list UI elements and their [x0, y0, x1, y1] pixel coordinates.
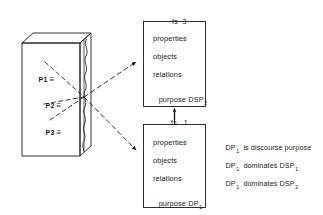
segment-relation-symbol-p2: ≡ — [55, 101, 62, 110]
statement-3-object-subscript: 2 — [295, 184, 299, 190]
statement-line-3: DP1 dominates DSP2 — [217, 173, 298, 195]
fs3-slot-objects: objects — [153, 53, 177, 60]
fs3-purpose-value: DSP — [188, 95, 204, 104]
fs3-purpose-subscript: 2 — [204, 100, 208, 106]
statement-3-predicate: dominates — [243, 179, 277, 188]
fs1-slot-properties: properties — [153, 139, 187, 146]
segment-label-p2: P2≡ — [37, 95, 61, 117]
fs-link-tag: fs 1 — [162, 112, 188, 133]
statement-3-object: DSP — [280, 179, 295, 188]
fs1-slot-objects: objects — [153, 157, 177, 164]
fs3-tag-number: 3 — [183, 18, 187, 25]
figure-canvas: P1≡ P2≡ P3≡ fs 3 properties objects rela… — [0, 0, 323, 215]
fs3-slot-properties: properties — [153, 35, 187, 42]
fs1-purpose-subscript: 1 — [199, 204, 203, 210]
dashed-arrow-to-fs3 — [84, 62, 136, 97]
fs3-slot-purpose: purpose DSP2 — [150, 89, 207, 111]
statement-2-predicate: dominates — [243, 161, 277, 170]
segment-relation-symbol-p1: ≡ — [48, 75, 55, 84]
fs3-tag: fs 3 — [163, 11, 187, 32]
segment-label-p3: P3≡ — [37, 122, 61, 144]
statement-1-subject-subscript: 1 — [236, 148, 240, 154]
statement-1-predicate: is discourse purpose — [243, 143, 311, 152]
fs-link-tag-number: 1 — [184, 119, 188, 126]
fs1-purpose-value: DP — [188, 199, 198, 208]
dashed-arrow-to-fs1 — [84, 97, 136, 150]
statement-2-object: DSP — [280, 161, 295, 170]
statement-3-subject-subscript: 1 — [236, 184, 240, 190]
statement-2-subject-subscript: 1 — [236, 166, 240, 172]
statement-2-object-subscript: 1 — [295, 166, 299, 172]
fs1-slot-relations: relations — [153, 175, 182, 182]
segment-relation-symbol-p3: ≡ — [55, 128, 62, 137]
fs3-slot-relations: relations — [153, 71, 182, 78]
segment-label-p1: P1≡ — [30, 69, 54, 91]
fs1-slot-purpose: purpose DP1 — [150, 193, 202, 215]
